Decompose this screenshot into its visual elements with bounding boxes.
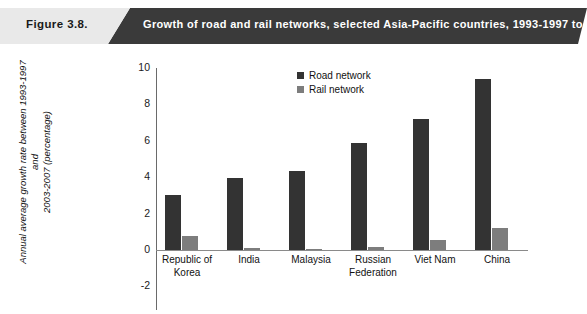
- figure-title-label: Growth of road and rail networks, select…: [143, 18, 587, 30]
- bar-rail: [430, 240, 446, 250]
- x-category-label-line: Russian: [342, 254, 404, 267]
- x-category-label-line: Korea: [156, 267, 218, 280]
- bar-road: [475, 79, 491, 250]
- figure-header-banner: Figure 3.8. Growth of road and rail netw…: [0, 8, 587, 44]
- y-axis-title-line1: Annual average growth rate between 1993-…: [17, 57, 41, 267]
- bar-rail: [306, 249, 322, 250]
- x-axis-category-labels: Republic ofKoreaIndiaMalaysiaRussianFede…: [156, 254, 528, 300]
- y-axis-title-line2: 2003-2007 (percentage): [41, 57, 53, 267]
- x-category-label-line: China: [466, 254, 528, 267]
- y-tick-label: 10: [110, 61, 150, 73]
- bar-road: [165, 195, 181, 250]
- x-category-label-line: Federation: [342, 267, 404, 280]
- bar-road: [227, 178, 243, 250]
- y-axis-title: Annual average growth rate between 1993-…: [17, 57, 53, 267]
- y-tick-label: 6: [110, 134, 150, 146]
- bar-rail: [368, 247, 384, 250]
- x-category-label-line: India: [218, 254, 280, 267]
- x-category-label: India: [218, 254, 280, 267]
- x-category-label-line: Republic of: [156, 254, 218, 267]
- chart-container: Annual average growth rate between 1993-…: [0, 44, 587, 314]
- y-tick-label: 8: [110, 97, 150, 109]
- x-category-label: Malaysia: [280, 254, 342, 267]
- bar-road: [413, 119, 429, 250]
- x-category-label: Viet Nam: [404, 254, 466, 267]
- y-axis-ticks: 1086420-2: [106, 44, 150, 314]
- y-tick-label: 0: [110, 243, 150, 255]
- bar-road: [289, 171, 305, 250]
- x-category-label-line: Viet Nam: [404, 254, 466, 267]
- y-tick-label: 4: [110, 170, 150, 182]
- x-category-label: RussianFederation: [342, 254, 404, 279]
- y-tick-label: -2: [110, 279, 150, 291]
- bar-road: [351, 143, 367, 250]
- figure-number-label: Figure 3.8.: [26, 18, 88, 30]
- x-category-label-line: Malaysia: [280, 254, 342, 267]
- x-category-label: Republic ofKorea: [156, 254, 218, 279]
- bar-rail: [492, 228, 508, 250]
- x-category-label: China: [466, 254, 528, 267]
- bar-rail: [244, 248, 260, 250]
- bar-rail: [182, 236, 198, 250]
- y-tick-label: 2: [110, 207, 150, 219]
